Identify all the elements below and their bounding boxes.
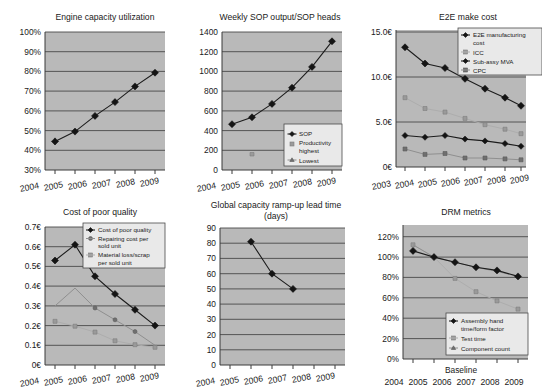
svg-text:2004: 2004 [196,180,217,194]
chart-title: Engine capacity utilization [56,12,155,22]
svg-text:2009: 2009 [504,377,523,387]
legend-entry-lowest: Lowest [299,157,319,164]
legend-entry-cpc: CPC [473,67,487,74]
svg-text:2007: 2007 [91,372,112,386]
svg-text:70%: 70% [24,86,41,96]
svg-text:200: 200 [204,145,218,155]
legend-entry-sub-assy-mva: Sub-assy MVA [473,58,514,65]
x-ticks [230,365,335,369]
chart-panel-cost-of-poor-quality: Cost of poor quality 0.7€ 0.6€ 0.5€ 0.4€… [0,195,180,390]
svg-text:600: 600 [204,106,218,116]
svg-text:highest: highest [299,147,319,154]
svg-text:2005: 2005 [43,179,64,193]
svg-text:2008: 2008 [291,371,312,385]
svg-text:2006: 2006 [67,178,88,192]
legend-entry-icc: ICC [473,49,484,56]
chart-panel-engine-capacity-utilization: Engine capacity utilization 100% 90% 80%… [0,0,180,195]
svg-text:90%: 90% [24,47,41,57]
svg-text:100%: 100% [20,27,42,37]
svg-text:2005: 2005 [220,179,241,193]
svg-text:0€: 0€ [383,162,393,172]
legend: Cost of poor quality Repairing cost per … [83,223,165,268]
svg-text:2009: 2009 [509,172,530,186]
svg-text:2009: 2009 [139,175,160,189]
svg-text:10: 10 [207,345,217,355]
svg-text:10.0€: 10.0€ [371,72,392,82]
svg-text:20%: 20% [382,334,399,344]
svg-text:80%: 80% [382,272,399,282]
legend-entry-productivity-highest: Productivity [299,139,332,146]
svg-text:0.6€: 0.6€ [25,242,42,252]
svg-text:cost: cost [473,39,485,46]
svg-text:1200: 1200 [199,47,218,57]
svg-text:0€: 0€ [32,360,42,370]
svg-text:50: 50 [207,284,217,294]
legend-entry-cost-of-poor-quality: Cost of poor quality [98,226,152,233]
chart-title: E2E make cost [439,12,497,22]
svg-text:30%: 30% [24,165,41,175]
legend-entry-component-count: Component count [461,345,510,352]
svg-text:30: 30 [207,314,217,324]
svg-text:2009: 2009 [316,175,337,189]
svg-text:2008: 2008 [480,377,499,387]
svg-text:80%: 80% [24,66,41,76]
svg-text:1000: 1000 [199,66,218,76]
chart-title: Cost of poor quality [63,207,138,217]
svg-text:2005: 2005 [43,374,64,388]
x-ticks [413,359,518,363]
chart-panel-weekly-sop-output: Weekly SOP output/SOP heads 1400 1200 10… [180,0,360,195]
chart-title: Global capacity ramp-up lead time [211,200,342,210]
x-axis-labels: 2004 2005 2006 2007 2008 2009 [195,370,336,389]
legend-entry-repairing-cost: Repairing cost per [98,235,148,242]
svg-text:2005: 2005 [417,176,438,190]
legend-entry-material-loss-scrap: Material loss/scrap [98,251,150,258]
svg-text:2004: 2004 [384,377,403,387]
x-ticks [55,170,155,174]
svg-text:2007: 2007 [91,177,112,191]
svg-text:2006: 2006 [67,373,88,387]
svg-text:800: 800 [204,86,218,96]
svg-text:0.7€: 0.7€ [25,222,42,232]
svg-text:0: 0 [213,165,218,175]
x-axis-labels: 2004 2005 2006 2007 2008 2009 [196,175,337,194]
y-axis-labels: 15.0€ 10.0€ 5.0€ 0€ [371,27,392,172]
chart-title: Weekly SOP output/SOP heads [220,12,341,22]
y-axis-labels: 90 80 70 60 50 40 30 20 10 0 [207,223,217,370]
svg-text:50%: 50% [24,126,41,136]
svg-text:0.5€: 0.5€ [25,261,42,271]
svg-text:90: 90 [207,223,217,233]
svg-text:per sold unit: per sold unit [98,259,132,266]
svg-text:40: 40 [207,299,217,309]
svg-text:sold unit: sold unit [98,242,121,249]
svg-text:2006: 2006 [243,373,264,387]
svg-text:2005: 2005 [408,377,427,387]
svg-text:2007: 2007 [463,174,484,188]
svg-text:60%: 60% [382,293,399,303]
svg-text:2004: 2004 [195,375,216,389]
svg-text:2005: 2005 [219,374,240,388]
svg-text:2006: 2006 [440,175,461,189]
svg-text:2009: 2009 [139,370,160,384]
svg-text:2008: 2008 [115,371,136,385]
svg-text:15.0€: 15.0€ [371,27,392,37]
y-axis-labels: 120% 100% 80% 60% 40% 20% 0% [378,232,400,364]
svg-text:2008: 2008 [486,173,507,187]
chart-panel-global-capacity-ramp-up-lead-time: Global capacity ramp-up lead time (days)… [180,195,360,390]
svg-text:0.2€: 0.2€ [25,321,42,331]
svg-text:2006: 2006 [244,178,265,192]
svg-text:400: 400 [204,126,218,136]
svg-text:0.1€: 0.1€ [25,340,42,350]
svg-text:2003: 2003 [371,178,392,192]
svg-text:60: 60 [207,269,217,279]
svg-text:2004: 2004 [19,180,40,194]
plot-area [45,32,165,170]
svg-text:2004: 2004 [19,375,40,389]
x-axis-labels: 2004 2005 2006 2007 2008 2009 [19,370,160,389]
legend: SOP Productivity highest Lowest [284,124,342,166]
svg-text:2007: 2007 [456,377,475,387]
svg-text:0.4€: 0.4€ [25,281,42,291]
x-ticks [405,167,521,171]
svg-text:time/form factor: time/form factor [461,325,504,332]
svg-text:0%: 0% [387,354,400,364]
plot-area [220,228,345,365]
